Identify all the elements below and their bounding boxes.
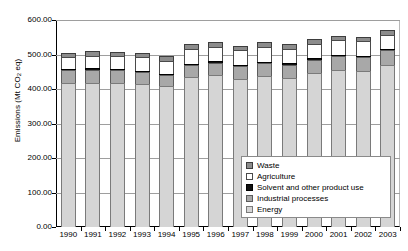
bar-group xyxy=(159,20,174,227)
bar-segment xyxy=(135,72,150,83)
bar-segment xyxy=(307,60,322,73)
bar-segment xyxy=(233,66,248,79)
bar-segment xyxy=(61,57,76,68)
bar-group xyxy=(208,20,223,227)
y-axis-tick xyxy=(52,124,56,125)
bar-segment xyxy=(159,86,174,227)
bar-group xyxy=(61,20,76,227)
y-axis-tick xyxy=(52,158,56,159)
y-axis-tick xyxy=(52,193,56,194)
legend-item-label: Waste xyxy=(257,161,279,170)
legend-item: Waste xyxy=(246,160,386,170)
gridline xyxy=(56,124,400,125)
bar-group xyxy=(135,20,150,227)
bar-segment xyxy=(159,61,174,74)
bar-segment xyxy=(61,83,76,227)
bar-segment xyxy=(184,65,199,77)
bar-segment xyxy=(257,63,272,76)
legend-item: Industrial processes xyxy=(246,193,386,203)
bar-segment xyxy=(85,56,100,68)
energy-swatch-icon xyxy=(246,206,253,213)
y-axis-tick-label: 100.00 xyxy=(6,188,52,197)
bar-group xyxy=(110,20,125,227)
bar-segment xyxy=(282,65,297,78)
bar-segment xyxy=(307,44,322,59)
bar-segment xyxy=(208,47,223,62)
bar-segment xyxy=(380,35,395,49)
y-axis-tick-label: 500.00 xyxy=(6,50,52,59)
gridline xyxy=(56,20,400,21)
emissions-stacked-bar-chart: Emissions (Mt CO2 eq) 600.00500.00400.00… xyxy=(0,0,408,251)
chart-legend: WasteAgricultureSolvent and other produc… xyxy=(241,156,391,218)
bar-segment xyxy=(135,57,150,71)
bar-segment xyxy=(233,50,248,64)
bar-segment xyxy=(159,75,174,85)
bar-group xyxy=(85,20,100,227)
bar-segment xyxy=(110,70,125,83)
y-axis-tick xyxy=(52,89,56,90)
gridline xyxy=(56,89,400,90)
y-axis-tick-label: 0.00 xyxy=(6,222,52,231)
bar-segment xyxy=(282,49,297,64)
bar-segment xyxy=(61,70,76,83)
legend-item: Energy xyxy=(246,204,386,214)
y-axis-tick-label: 300.00 xyxy=(6,119,52,128)
bar-segment xyxy=(356,41,371,56)
y-axis-tick-label: 400.00 xyxy=(6,84,52,93)
agriculture-swatch-icon xyxy=(246,173,253,180)
y-axis-title-tail: eq) xyxy=(13,59,22,73)
gridline xyxy=(56,55,400,56)
bar-segment xyxy=(184,77,199,227)
legend-item-label: Solvent and other product use xyxy=(257,183,364,192)
bar-segment xyxy=(85,70,100,83)
legend-item-label: Agriculture xyxy=(257,172,295,181)
bar-segment xyxy=(85,83,100,227)
solvent-swatch-icon xyxy=(246,184,253,191)
y-axis-tick-label: 600.00 xyxy=(6,15,52,24)
x-axis-tick-label: 2003 xyxy=(371,230,405,239)
bar-segment xyxy=(257,47,272,62)
bar-segment xyxy=(135,84,150,227)
legend-item-label: Industrial processes xyxy=(257,194,328,203)
bar-segment xyxy=(331,40,346,55)
industrial-swatch-icon xyxy=(246,195,253,202)
bar-segment xyxy=(184,49,199,64)
bar-segment xyxy=(110,56,125,69)
y-axis-tick xyxy=(52,227,56,228)
bar-segment xyxy=(356,57,371,71)
y-axis-tick xyxy=(52,20,56,21)
bar-segment xyxy=(331,56,346,70)
bar-segment xyxy=(208,75,223,227)
y-axis-tick-label: 200.00 xyxy=(6,153,52,162)
legend-item: Solvent and other product use xyxy=(246,182,386,192)
y-axis-title-subscript: 2 xyxy=(16,73,22,76)
bar-segment xyxy=(110,83,125,227)
waste-swatch-icon xyxy=(246,162,253,169)
bar-segment xyxy=(208,63,223,75)
bar-group xyxy=(184,20,199,227)
legend-item: Agriculture xyxy=(246,171,386,181)
y-axis-tick xyxy=(52,55,56,56)
legend-item-label: Energy xyxy=(257,205,282,214)
bar-segment xyxy=(380,50,395,64)
